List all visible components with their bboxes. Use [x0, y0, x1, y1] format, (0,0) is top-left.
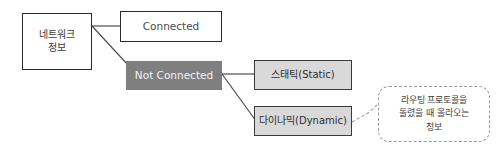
node-dynamic-label: 다이나믹(Dynamic) — [259, 115, 347, 128]
connector-dynamic-to-callout — [352, 104, 378, 122]
node-static[interactable]: 스태틱(Static) — [254, 60, 352, 90]
connector-not-connected-to-dynamic — [222, 74, 256, 121]
node-not-connected-label: Not Connected — [135, 69, 213, 82]
network-info-diagram: 네트워크 정보 Connected Not Connected 스태틱(Stat… — [0, 0, 498, 154]
node-connected-label: Connected — [143, 20, 200, 33]
callout-routing-info-label: 라우팅 프로토콜을 돌렸을 때 올라오는 정보 — [395, 94, 473, 133]
callout-routing-info[interactable]: 라우팅 프로토콜을 돌렸을 때 올라오는 정보 — [378, 86, 490, 142]
node-static-label: 스태틱(Static) — [271, 69, 334, 82]
node-connected[interactable]: Connected — [120, 11, 222, 42]
node-network-info[interactable]: 네트워크 정보 — [22, 13, 92, 70]
node-network-info-label: 네트워크 정보 — [39, 29, 75, 54]
node-dynamic[interactable]: 다이나믹(Dynamic) — [254, 106, 352, 136]
node-not-connected[interactable]: Not Connected — [126, 61, 222, 90]
